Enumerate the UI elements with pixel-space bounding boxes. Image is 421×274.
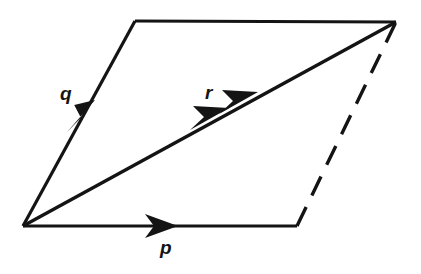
edge-parallel-to-q-dashed [297,22,396,226]
vector-q-arrowhead [65,100,97,133]
vector-diagram-canvas [0,0,421,274]
vector-diagram-figure: q r p [0,0,421,274]
edge-parallel-to-p [135,21,396,22]
vector-label-p: p [160,238,172,257]
vector-label-q: q [60,84,72,103]
vector-label-r: r [205,83,212,102]
